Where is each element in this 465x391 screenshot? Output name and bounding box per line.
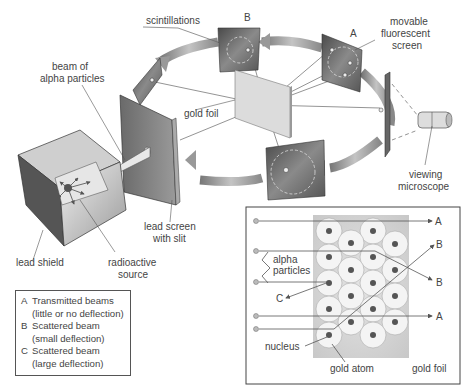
label-lead-screen-2: with slit bbox=[152, 233, 186, 244]
legend-item-a: A Transmitted beams bbox=[21, 295, 125, 308]
lead-shield bbox=[18, 130, 126, 246]
label-screen-a: A bbox=[350, 28, 357, 39]
screen-bottom bbox=[266, 140, 325, 200]
inset-gold-atom: gold atom bbox=[330, 363, 374, 374]
screen-b bbox=[218, 28, 260, 72]
label-viewing-1: viewing bbox=[409, 169, 442, 180]
atomic-inset: A B B C A alpha particles nucleus gold a… bbox=[246, 207, 460, 384]
label-movable-1: movable bbox=[390, 16, 428, 27]
microscope-sightlines bbox=[392, 84, 418, 140]
label-scintillations: scintillations bbox=[146, 15, 200, 26]
label-movable-3: screen bbox=[392, 40, 422, 51]
label-radioactive-1: radioactive bbox=[108, 257, 157, 268]
label-screen-b: B bbox=[244, 12, 251, 23]
label-movable-2: fluorescent bbox=[381, 28, 430, 39]
legend-item-a-sub: (little or no deflection) bbox=[21, 308, 125, 321]
inset-out-c: C bbox=[276, 293, 283, 304]
legend-item-c: C Scattered beam bbox=[21, 345, 125, 358]
legend-item-c-sub: (large deflection) bbox=[21, 358, 125, 371]
label-radioactive-2: source bbox=[118, 269, 148, 280]
screen-c bbox=[133, 58, 162, 105]
inset-out-b-mid: B bbox=[436, 277, 443, 288]
inset-alpha-1: alpha bbox=[273, 254, 298, 265]
label-lead-screen-1: lead screen bbox=[144, 221, 196, 232]
inset-nucleus: nucleus bbox=[265, 341, 299, 352]
inset-out-b-top: B bbox=[436, 239, 443, 250]
viewing-microscope bbox=[418, 112, 452, 128]
inset-out-a-bottom: A bbox=[436, 311, 443, 322]
inset-alpha-2: particles bbox=[273, 265, 310, 276]
inset-out-a-top: A bbox=[435, 216, 442, 227]
label-lead-shield: lead shield bbox=[16, 257, 64, 268]
label-gold-foil: gold foil bbox=[184, 108, 218, 119]
gold-foil bbox=[235, 70, 292, 138]
inset-gold-foil: gold foil bbox=[412, 363, 446, 374]
label-beam-1: beam of bbox=[52, 61, 88, 72]
gold-atoms bbox=[316, 218, 408, 348]
label-beam-2: alpha particles bbox=[40, 73, 104, 84]
legend-box: A Transmitted beams (little or no deflec… bbox=[15, 290, 131, 376]
label-viewing-2: microscope bbox=[398, 181, 450, 192]
legend-item-b: B Scattered beam bbox=[21, 320, 125, 333]
legend-item-b-sub: (small deflection) bbox=[21, 333, 125, 346]
screen-a bbox=[322, 34, 362, 92]
